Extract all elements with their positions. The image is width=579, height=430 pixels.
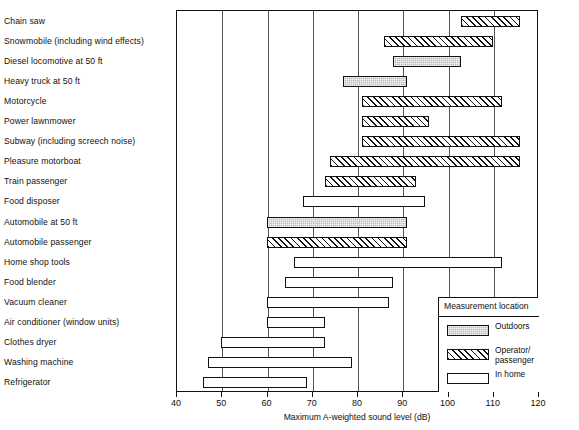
x-tick-mark (221, 392, 222, 397)
legend-swatch-outdoors (447, 325, 489, 336)
x-tick-mark (176, 392, 177, 397)
category-label: Snowmobile (including wind effects) (4, 36, 166, 46)
x-tick-label: 60 (261, 398, 271, 408)
x-tick-label: 40 (171, 398, 181, 408)
bar[interactable] (267, 297, 389, 308)
bar[interactable] (203, 377, 307, 388)
legend-label: Operator/ passenger (495, 346, 534, 365)
bar[interactable] (267, 217, 407, 228)
bar[interactable] (221, 337, 325, 348)
x-tick-label: 50 (216, 398, 226, 408)
category-label: Heavy truck at 50 ft (4, 76, 166, 86)
legend-label: Outdoors (495, 322, 529, 332)
x-tick-label: 80 (352, 398, 362, 408)
bar[interactable] (208, 357, 353, 368)
legend-label: In home (495, 370, 525, 380)
bar[interactable] (325, 176, 416, 187)
category-label: Refrigerator (4, 377, 166, 387)
legend-swatch-operator (447, 349, 489, 360)
bar[interactable] (362, 96, 502, 107)
bar[interactable] (393, 56, 461, 67)
category-label: Power lawnmower (4, 116, 166, 126)
category-label: Vacuum cleaner (4, 297, 166, 307)
category-label: Pleasure motorboat (4, 156, 166, 166)
x-tick-label: 70 (307, 398, 317, 408)
category-label: Motorcycle (4, 96, 166, 106)
bar[interactable] (384, 36, 493, 47)
x-tick-label: 90 (397, 398, 407, 408)
x-tick-mark (312, 392, 313, 397)
category-label: Air conditioner (window units) (4, 317, 166, 327)
bar[interactable] (285, 277, 394, 288)
bar[interactable] (362, 116, 430, 127)
gridline-50 (222, 11, 223, 391)
category-label: Chain saw (4, 16, 166, 26)
x-axis-ticks: 405060708090100110120 (176, 392, 538, 398)
legend: Measurement location OutdoorsOperator/ p… (438, 297, 538, 392)
x-tick-mark (267, 392, 268, 397)
category-label: Automobile at 50 ft (4, 217, 166, 227)
legend-title: Measurement location (444, 301, 529, 311)
legend-item[interactable]: Operator/ passenger (447, 346, 539, 368)
x-tick-label: 110 (486, 398, 500, 408)
x-tick-label: 120 (530, 398, 545, 408)
bar[interactable] (362, 136, 520, 147)
x-tick-mark (538, 392, 539, 397)
category-label: Clothes dryer (4, 337, 166, 347)
category-label: Train passenger (4, 176, 166, 186)
bar[interactable] (330, 156, 520, 167)
category-label: Subway (including screech noise) (4, 136, 166, 146)
bar[interactable] (343, 76, 406, 87)
bar[interactable] (267, 317, 326, 328)
noise-level-chart: Chain sawSnowmobile (including wind effe… (0, 0, 579, 430)
x-tick-mark (402, 392, 403, 397)
bar[interactable] (267, 237, 407, 248)
category-label: Food blender (4, 277, 166, 287)
legend-divider (439, 316, 539, 317)
x-tick-mark (493, 392, 494, 397)
category-label: Automobile passenger (4, 237, 166, 247)
category-label: Food disposer (4, 196, 166, 206)
x-tick-label: 100 (440, 398, 455, 408)
legend-swatch-inhome (447, 373, 489, 384)
bar[interactable] (461, 16, 520, 27)
legend-item[interactable]: In home (447, 370, 539, 392)
bar[interactable] (294, 257, 502, 268)
category-label: Washing machine (4, 357, 166, 367)
bar[interactable] (303, 196, 425, 207)
x-tick-mark (357, 392, 358, 397)
x-tick-mark (448, 392, 449, 397)
legend-item[interactable]: Outdoors (447, 322, 539, 344)
gridline-60 (268, 11, 269, 391)
x-axis-title: Maximum A-weighted sound level (dB) (176, 412, 538, 422)
category-label: Home shop tools (4, 257, 166, 267)
category-axis-labels: Chain sawSnowmobile (including wind effe… (0, 10, 172, 392)
category-label: Diesel locomotive at 50 ft (4, 56, 166, 66)
